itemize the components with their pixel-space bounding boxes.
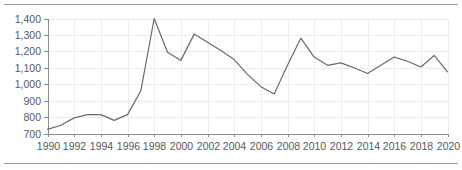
x-tick-label: 1990	[37, 140, 61, 152]
x-tick-label: 2010	[303, 140, 327, 152]
x-tick-label: 1996	[117, 140, 141, 152]
x-tick-label: 2006	[250, 140, 274, 152]
y-tick-labels-group: 7008009001,0001,1001,2001,3001,400	[15, 13, 41, 140]
x-tick-label: 2020	[437, 140, 461, 152]
bottom-divider-rule	[4, 163, 458, 164]
x-tick-labels-group: 1990199219941996199820002002200420062008…	[37, 140, 461, 152]
x-tick-label: 2008	[277, 140, 301, 152]
x-tick-label: 2012	[330, 140, 354, 152]
x-tick-label: 1998	[143, 140, 167, 152]
y-tick-label: 1,400	[15, 13, 41, 25]
y-tick-label: 1,100	[15, 62, 41, 74]
chart-figure: 7008009001,0001,1001,2001,3001,400 19901…	[0, 0, 462, 170]
top-divider-rule	[4, 4, 458, 5]
y-tick-label: 1,300	[15, 29, 41, 41]
x-tick-label: 1994	[90, 140, 114, 152]
y-tick-marks-group	[44, 20, 48, 135]
y-tick-label: 700	[23, 128, 41, 140]
y-tick-label: 1,000	[15, 78, 41, 90]
line-chart-svg: 7008009001,0001,1001,2001,3001,400 19901…	[0, 10, 462, 162]
y-tick-label: 1,200	[15, 45, 41, 57]
x-tick-label: 2018	[410, 140, 434, 152]
x-tick-label: 2000	[170, 140, 194, 152]
y-tick-label: 900	[23, 95, 41, 107]
x-tick-label: 2004	[223, 140, 247, 152]
x-tick-label: 2016	[383, 140, 407, 152]
x-tick-label: 2014	[357, 140, 381, 152]
x-tick-label: 2002	[197, 140, 221, 152]
x-tick-label: 1992	[63, 140, 87, 152]
plot-area: 7008009001,0001,1001,2001,3001,400 19901…	[0, 10, 462, 162]
y-tick-label: 800	[23, 111, 41, 123]
